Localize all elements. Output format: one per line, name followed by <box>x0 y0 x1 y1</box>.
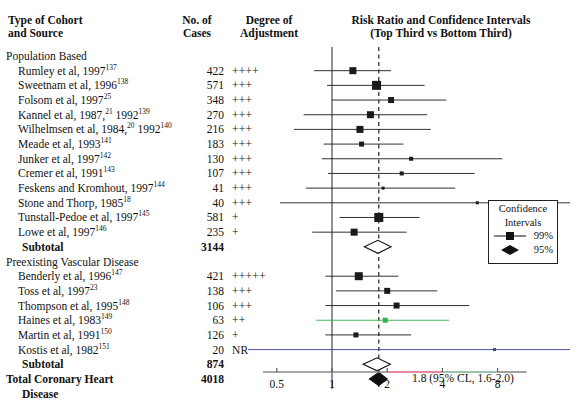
axis-tick-label: 0.5 <box>262 378 292 390</box>
row-label: Preexisting Vascular Disease <box>6 255 139 269</box>
row-label: Wilhelmsen et al, 1984,20 1992140 <box>18 122 172 136</box>
row-cases: 348 <box>170 93 224 107</box>
legend-label-99: 99% <box>534 229 553 243</box>
row-label: Rumley et al, 1997137 <box>18 64 117 78</box>
row-cases: 581 <box>170 210 224 224</box>
study-row: Kannel et al, 1987,21 1992139270+++ <box>0 108 312 122</box>
study-row: Stone and Thorp, 19851840+++ <box>0 196 312 210</box>
row-adjustment: + <box>232 328 306 342</box>
row-cases: 130 <box>170 152 224 166</box>
row-label: Disease <box>22 387 58 401</box>
row-adjustment: +++ <box>232 93 306 107</box>
row-adjustment: + <box>232 210 306 224</box>
row-label: Toss et al, 199723 <box>18 284 98 298</box>
study-row: Thompson et al, 1995148106+++ <box>0 299 312 313</box>
legend-item-95: 95% <box>489 243 557 257</box>
row-label: Lowe et al, 1997146 <box>18 225 107 239</box>
row-label: Benderly et al, 1996147 <box>18 269 123 283</box>
row-label: Meade et al, 1993141 <box>18 137 112 151</box>
row-label: Subtotal <box>22 240 64 254</box>
column-header-cohort-line2: and Source <box>8 27 158 40</box>
group-heading: Preexisting Vascular Disease <box>0 255 312 269</box>
row-cases: 421 <box>170 269 224 283</box>
row-adjustment: ++ <box>232 313 306 327</box>
row-label: Thompson et al, 1995148 <box>18 299 130 313</box>
legend-item-99: 99% <box>489 229 557 243</box>
row-label: Junker et al, 1997142 <box>18 152 111 166</box>
row-adjustment: +++ <box>232 181 306 195</box>
axis-tick-label: 4 <box>427 378 457 390</box>
row-label: Sweetnam et al, 1996138 <box>18 78 128 92</box>
column-header-cases-line1: No. of <box>170 14 224 27</box>
row-cases: 20 <box>170 343 224 357</box>
row-cases: 216 <box>170 122 224 136</box>
row-adjustment: +++ <box>232 152 306 166</box>
study-row: Junker et al, 1997142130+++ <box>0 152 312 166</box>
row-label: Population Based <box>6 49 87 63</box>
column-header-plot-line1: Risk Ratio and Confidence Intervals <box>312 14 570 27</box>
study-row: Lowe et al, 1997146235+ <box>0 225 312 239</box>
column-header-adjustment-line1: Degree of <box>232 14 306 27</box>
subtotal-row: Subtotal3144 <box>0 240 312 254</box>
study-row: Rumley et al, 1997137422++++ <box>0 64 312 78</box>
row-label: Haines et al, 1983149 <box>18 313 112 327</box>
row-cases: 40 <box>170 196 224 210</box>
legend-square-marker-icon <box>493 229 527 243</box>
row-label: Tunstall-Pedoe et al, 1997145 <box>18 210 150 224</box>
row-adjustment: ++++ <box>232 64 306 78</box>
legend-box: Confidence Intervals 99% 95% <box>488 200 558 264</box>
row-cases: 874 <box>170 357 224 371</box>
column-header-plot: Risk Ratio and Confidence Intervals (Top… <box>312 14 570 40</box>
row-cases: 235 <box>170 225 224 239</box>
column-header-adjustment-line2: Adjustment <box>232 27 306 40</box>
legend-label-95: 95% <box>534 243 553 257</box>
row-label: Cremer et al, 1991143 <box>18 166 115 180</box>
row-adjustment: +++ <box>232 299 306 313</box>
row-label: Total Coronary Heart <box>6 372 113 386</box>
study-row: Benderly et al, 1996147421+++++ <box>0 269 312 283</box>
study-row: Toss et al, 199723138+++ <box>0 284 312 298</box>
row-adjustment: +++ <box>232 284 306 298</box>
row-adjustment: +++ <box>232 196 306 210</box>
row-label: Kostis et al, 1982151 <box>18 343 110 357</box>
study-row: Cremer et al, 1991143107+++ <box>0 166 312 180</box>
column-header-cohort-line1: Type of Cohort <box>8 14 158 27</box>
row-cases: 126 <box>170 328 224 342</box>
row-adjustment: + <box>232 225 306 239</box>
row-cases: 138 <box>170 284 224 298</box>
study-row: Folsom et al, 199725348+++ <box>0 93 312 107</box>
row-adjustment: +++ <box>232 137 306 151</box>
row-label: Folsom et al, 199725 <box>18 93 111 107</box>
study-row: Sweetnam et al, 1996138571+++ <box>0 78 312 92</box>
row-label: Subtotal <box>22 357 64 371</box>
study-row: Tunstall-Pedoe et al, 1997145581+ <box>0 210 312 224</box>
row-cases: 107 <box>170 166 224 180</box>
row-adjustment: +++ <box>232 78 306 92</box>
row-cases: 422 <box>170 64 224 78</box>
study-row: Meade et al, 1993141183+++ <box>0 137 312 151</box>
axis-tick-label: 1 <box>317 378 347 390</box>
row-cases: 106 <box>170 299 224 313</box>
axis-tick-label: 2 <box>372 378 402 390</box>
row-adjustment: +++ <box>232 122 306 136</box>
column-header-cases: No. of Cases <box>170 14 224 40</box>
row-cases: 183 <box>170 137 224 151</box>
row-adjustment: +++ <box>232 166 306 180</box>
column-header-adjustment: Degree of Adjustment <box>232 14 306 40</box>
row-label: Kannel et al, 1987,21 1992139 <box>18 108 150 122</box>
row-cases: 41 <box>170 181 224 195</box>
row-cases: 63 <box>170 313 224 327</box>
forest-plot-figure: Type of Cohort and Source No. of Cases D… <box>0 0 576 407</box>
row-cases: 3144 <box>170 240 224 254</box>
row-label: Feskens and Kromhout, 1997144 <box>18 181 165 195</box>
study-row: Haines et al, 198314963++ <box>0 313 312 327</box>
axis-tick-label: 8 <box>483 378 513 390</box>
row-cases: 270 <box>170 108 224 122</box>
row-adjustment: NR <box>232 343 306 357</box>
group-heading: Population Based <box>0 49 312 63</box>
row-label: Stone and Thorp, 198518 <box>18 196 131 210</box>
study-row: Martin et al, 1991150126+ <box>0 328 312 342</box>
study-row: Feskens and Kromhout, 199714441+++ <box>0 181 312 195</box>
row-adjustment: +++ <box>232 108 306 122</box>
column-header-plot-line2: (Top Third vs Bottom Third) <box>312 27 570 40</box>
